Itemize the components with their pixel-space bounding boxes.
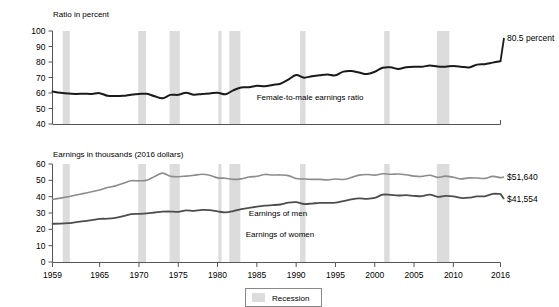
y-tick-label: 30 [36,208,46,218]
y-tick-label: 50 [36,104,46,114]
x-tick-label: 2000 [365,270,384,280]
x-tick-label: 2016 [491,270,510,280]
y-tick-label: 90 [36,42,46,52]
y-tick-label: 70 [36,73,46,83]
women-leader-line [501,194,505,199]
recession-band [437,164,450,262]
legend-recession-label: Recession [272,294,309,303]
recession-band [218,31,221,124]
y-tick-label: 100 [31,26,45,36]
y-tick-label: 50 [36,175,46,185]
x-tick-label: 2010 [444,270,463,280]
y-tick-label: 40 [36,119,46,129]
earnings-panel-axis-title: Earnings in thousands (2016 dollars) [53,150,184,159]
recession-band [170,31,180,124]
recession-band [384,31,390,124]
earnings-panel-y-ticks: 0102030405060 [36,159,52,267]
recession-band [384,164,390,262]
legend-recession-swatch [252,293,265,302]
x-tick-label: 1985 [247,270,266,280]
y-tick-label: 40 [36,192,46,202]
earnings-women-series-label: Earnings of women [246,230,314,239]
ratio-panel-y-ticks: 405060708090100 [31,26,52,129]
earnings-ratio-figure: Ratio in percent 405060708090100 Female-… [0,0,559,307]
recession-band [170,164,180,262]
x-tick-label: 1995 [326,270,345,280]
earnings-panel-x-ticks [53,263,501,268]
y-tick-label: 20 [36,224,46,234]
ratio-panel: Ratio in percent 405060708090100 Female-… [31,10,555,129]
legend: Recession [246,289,322,307]
earnings-panel: Earnings in thousands (2016 dollars) 010… [36,150,538,280]
recession-band [138,31,146,124]
y-tick-label: 80 [36,57,46,67]
y-tick-label: 10 [36,241,46,251]
earnings-panel-x-tick-labels: 1959196519701975198019851990199520002005… [43,270,510,280]
x-tick-label: 1970 [129,270,148,280]
y-tick-label: 60 [36,159,46,169]
x-tick-label: 1959 [43,270,62,280]
recession-band [63,31,70,124]
x-tick-label: 2005 [405,270,424,280]
men-leader-line [501,177,505,178]
ratio-panel-recession-bands [63,31,450,124]
ratio-leader-line [501,38,505,61]
ratio-panel-axis-title: Ratio in percent [53,10,110,19]
ratio-series-label: Female-to-male earnings ratio [257,93,364,102]
recession-band [437,31,450,124]
x-tick-label: 1980 [208,270,227,280]
earnings-women-end-label: $41,554 [507,194,538,204]
ratio-end-label: 80.5 percent [507,33,555,43]
recession-band [63,164,70,262]
earnings-men-series-label: Earnings of men [249,209,307,218]
earnings-men-end-label: $51,640 [507,172,538,182]
recession-band [229,31,240,124]
y-tick-label: 0 [41,257,46,267]
x-tick-label: 1990 [287,270,306,280]
y-tick-label: 60 [36,88,46,98]
x-tick-label: 1975 [169,270,188,280]
x-tick-label: 1965 [90,270,109,280]
